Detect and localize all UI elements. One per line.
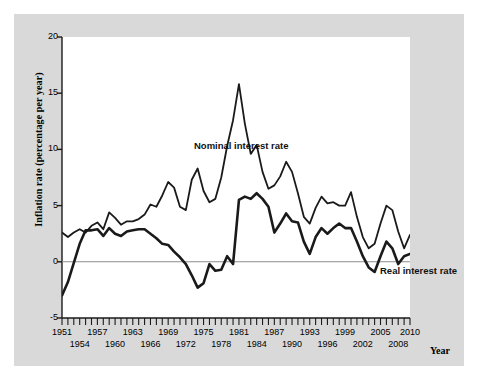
x-tick-label: 1990 — [282, 339, 302, 349]
x-tick-label: 1975 — [194, 327, 214, 337]
y-axis-tick-labels: 20151050-5 — [36, 37, 58, 318]
x-tick-label: 2002 — [353, 339, 373, 349]
x-tick-label: 1972 — [176, 339, 196, 349]
x-axis-title: Year — [430, 345, 450, 356]
x-tick-label: 1954 — [70, 339, 90, 349]
series-layer — [62, 37, 410, 318]
series-line-real — [62, 193, 410, 295]
x-tick-label: 1966 — [140, 339, 160, 349]
series-label-nominal: Nominal interest rate — [194, 140, 289, 151]
chart-figure: Inflation rate (percentage per year) 201… — [14, 14, 464, 366]
x-tick-label: 1951 — [52, 327, 72, 337]
x-tick-label: 1984 — [247, 339, 267, 349]
x-tick-label: 1981 — [229, 327, 249, 337]
x-tick-label: 1960 — [105, 339, 125, 349]
x-tick-label: 2008 — [388, 339, 408, 349]
y-tick-label: -5 — [50, 312, 58, 322]
y-tick-label: 5 — [53, 200, 58, 210]
x-tick-label: 1957 — [87, 327, 107, 337]
x-tick-label: 1999 — [335, 327, 355, 337]
x-tick-label: 1987 — [264, 327, 284, 337]
x-tick-label: 1969 — [158, 327, 178, 337]
x-tick-label: 2005 — [370, 327, 390, 337]
y-tick-label: 20 — [48, 31, 58, 41]
x-tick-label: 1963 — [123, 327, 143, 337]
x-tick-label: 1978 — [211, 339, 231, 349]
plot-wrapper: Nominal interest rate Real interest rate — [62, 37, 410, 318]
y-tick-label: 0 — [53, 256, 58, 266]
y-tick-label: 15 — [48, 87, 58, 97]
x-tick-label: 1996 — [317, 339, 337, 349]
series-label-real: Real interest rate — [380, 265, 457, 276]
y-tick-label: 10 — [48, 143, 58, 153]
x-tick-label: 1993 — [300, 327, 320, 337]
x-tick-label: 2010 — [400, 327, 420, 337]
